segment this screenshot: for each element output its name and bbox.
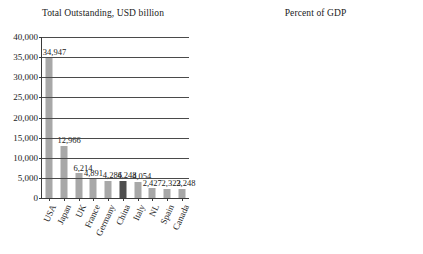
chart-panel-total-outstanding: Total Outstanding, USD billion 34,947USA… [0,0,206,254]
y-axis-tick-label: 40,000 [13,32,38,42]
gridline [42,178,189,179]
y-axis-tick-mark [39,158,42,159]
chart-panel-percent-of-gdp: Percent of GDP 276NL272Japan207UK197USA1… [208,0,423,254]
y-axis-tick-mark [39,178,42,179]
chart-page: Total Outstanding, USD billion 34,947USA… [0,0,423,254]
chart-title-left: Total Outstanding, USD billion [0,8,206,18]
gridline [42,118,189,119]
y-axis-tick-label: 25,000 [13,92,38,102]
gridline [42,138,189,139]
y-axis-tick-label: 0 [34,193,39,203]
y-axis-tick-mark [39,37,42,38]
y-axis-tick-label: 35,000 [13,52,38,62]
gridline [42,97,189,98]
y-axis-tick-label: 30,000 [13,72,38,82]
plot-area-left: 34,947USA12,966Japan6,214UK4,891France4,… [41,37,189,199]
x-axis-tick-label: NL [147,203,161,218]
bar-uk[interactable] [75,173,82,198]
y-axis-tick-label: 20,000 [13,113,38,123]
bar-japan[interactable] [61,146,68,198]
chart-title-right: Percent of GDP [208,8,423,18]
y-axis-tick-mark [39,77,42,78]
y-axis-tick-mark [39,97,42,98]
y-axis-tick-mark [39,138,42,139]
y-axis-tick-label: 5,000 [18,173,38,183]
y-axis-tick-mark [39,57,42,58]
x-axis-tick-label: Italy [131,203,147,222]
y-axis-tick-label: 15,000 [13,133,38,143]
gridline [42,158,189,159]
gridline [42,77,189,78]
gridline [42,37,189,38]
y-axis-tick-label: 10,000 [13,153,38,163]
gridline [42,57,189,58]
y-axis-tick-mark [39,118,42,119]
y-axis-tick-mark [39,198,42,199]
bar-italy[interactable] [134,182,141,198]
